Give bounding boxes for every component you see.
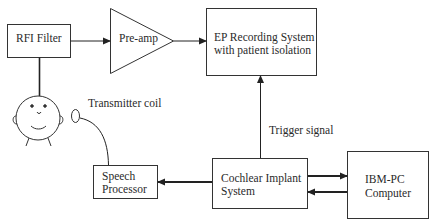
ep-recording-label-2: with patient isolation [214, 44, 311, 57]
speech-processor-label-2: Processor [102, 183, 147, 196]
ibm-pc-label-2: Computer [365, 187, 411, 200]
preamp-label: Pre-amp [119, 32, 158, 45]
cochlear-implant-label-1: Cochlear Implant [221, 172, 301, 185]
transmitter-coil-label: Transmitter coil [88, 97, 161, 110]
cochlear-implant-label-2: System [221, 185, 255, 198]
rfi-filter-label: RFI Filter [16, 32, 62, 45]
transmitter-coil-icon [72, 110, 80, 123]
ibm-pc-label-1: IBM-PC [365, 173, 405, 186]
speech-processor-label-1: Speech [102, 170, 135, 183]
diagram-canvas: RFI Filter Pre-amp EP Recording System w… [0, 0, 436, 224]
ep-recording-label-1: EP Recording System [214, 31, 315, 44]
coil-cable [80, 118, 109, 165]
patient-head-icon [13, 96, 63, 146]
trigger-signal-label: Trigger signal [269, 124, 333, 137]
